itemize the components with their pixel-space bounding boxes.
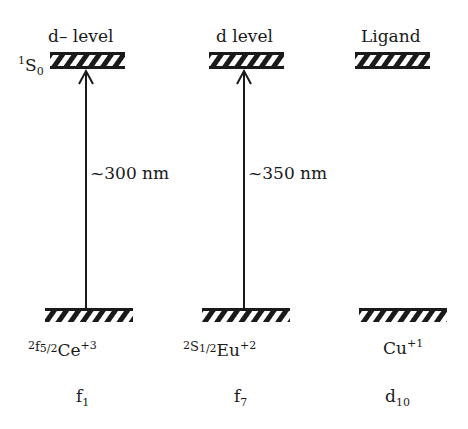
- ground-state-label-ce: 2f5/2Ce+3: [28, 340, 97, 359]
- upper-level-bar-cu-ligand: [355, 52, 430, 69]
- ground-state-label-eu: 2S1/2Eu+2: [183, 340, 256, 359]
- upper-level-bar-eu: [209, 52, 284, 69]
- ground-state-label-cu: Cu+1: [383, 340, 423, 357]
- upper-level-label-ce: d– level: [48, 28, 113, 45]
- energy-level-drawing: [0, 0, 468, 429]
- upper-level-label-eu: d level: [216, 28, 273, 45]
- configuration-eu: f7: [234, 388, 247, 405]
- upper-level-bar-ce: [50, 52, 125, 69]
- transition-arrow-eu: [237, 71, 251, 308]
- ground-level-bar-ce: [45, 308, 133, 322]
- transition-arrow-ce: [79, 71, 93, 308]
- configuration-cu: d10: [385, 388, 410, 405]
- transition-wavelength-ce: ~300 nm: [90, 165, 169, 182]
- upper-state-term-ce: 1S0: [18, 57, 44, 74]
- upper-level-label-cu: Ligand: [361, 28, 421, 45]
- configuration-ce: f1: [76, 388, 89, 405]
- transition-wavelength-eu: ~350 nm: [248, 165, 327, 182]
- ground-level-bar-eu: [202, 308, 290, 322]
- ground-level-bar-cu: [359, 308, 447, 322]
